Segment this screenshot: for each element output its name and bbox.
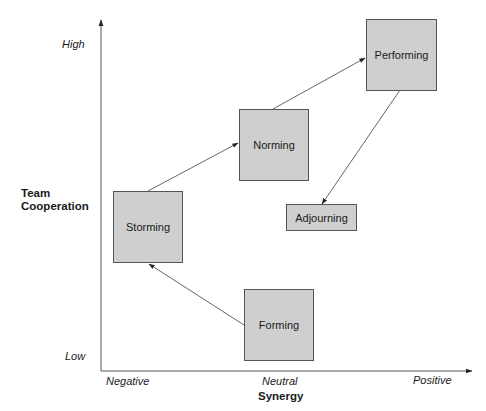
stage-box-norming: Norming	[239, 109, 309, 181]
x-axis-negative-label: Negative	[106, 375, 149, 387]
stage-label-performing: Performing	[375, 49, 429, 61]
y-axis-title-line2: Cooperation	[21, 200, 89, 213]
stage-box-adjourning: Adjourning	[286, 204, 357, 231]
x-axis-title: Synergy	[258, 390, 303, 402]
y-axis-high-label: High	[62, 38, 85, 50]
arrow-performing-to-adjourning	[322, 90, 400, 204]
x-axis-positive-label: Positive	[413, 374, 452, 386]
arrow-norming-to-performing	[273, 58, 365, 109]
stage-box-forming: Forming	[244, 289, 314, 361]
stage-box-storming: Storming	[113, 191, 183, 263]
stage-label-norming: Norming	[253, 139, 295, 151]
arrow-storming-to-norming	[148, 143, 238, 191]
stage-label-adjourning: Adjourning	[295, 212, 348, 224]
x-axis-neutral-label: Neutral	[262, 375, 297, 387]
stage-label-forming: Forming	[259, 319, 299, 331]
y-axis-title-line1: Team	[21, 187, 89, 200]
arrow-forming-to-storming	[149, 264, 244, 325]
y-axis-title: Team Cooperation	[21, 187, 89, 213]
stage-label-storming: Storming	[126, 221, 170, 233]
y-axis-low-label: Low	[65, 350, 85, 362]
stage-box-performing: Performing	[366, 19, 437, 91]
